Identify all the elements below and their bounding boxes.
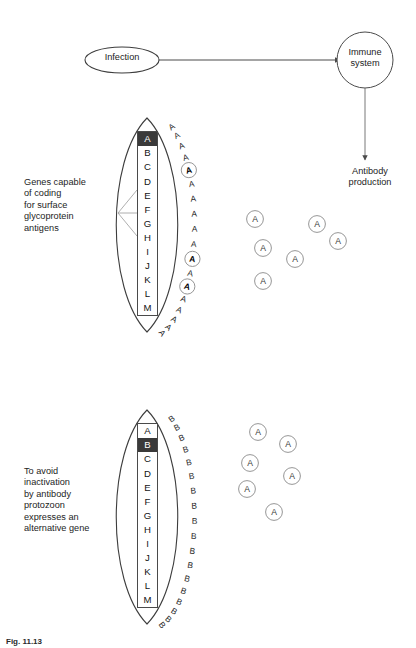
free-antibody-label: A xyxy=(255,427,261,437)
gene-cell: K xyxy=(138,273,157,287)
surface-antigen: B xyxy=(157,620,169,631)
gene-column-panel-1: ABCDEFGHIJKLM xyxy=(137,131,158,316)
surface-antigen: A xyxy=(177,140,186,152)
surface-antigen: A xyxy=(179,293,188,304)
gene-cell: E xyxy=(138,188,157,202)
free-antibody-label: A xyxy=(244,484,250,494)
surface-antigen: A xyxy=(189,254,196,265)
diagram-vector-layer: AAAAAAAAAAAAAAAAAA BBBBBBBBBBBBBBBBBB AA… xyxy=(0,0,416,648)
free-antibody-label: A xyxy=(252,214,258,224)
antibody-production-label: Antibody production xyxy=(334,166,406,188)
gene-cell: H xyxy=(138,523,157,537)
surface-antigen: B xyxy=(187,560,195,571)
surface-antigen: A xyxy=(190,193,197,204)
gene-cell: E xyxy=(138,480,157,494)
surface-antigen: B xyxy=(192,516,198,526)
surface-antigen: B xyxy=(172,421,182,433)
gene-cell: I xyxy=(138,245,157,259)
gene-cell: L xyxy=(138,287,157,301)
free-antibody-label: A xyxy=(314,219,320,229)
surface-antigen: A xyxy=(172,129,182,141)
surface-antigen: B xyxy=(189,546,196,557)
infection-label: Infection xyxy=(86,52,158,63)
gene-cell: F xyxy=(138,202,157,216)
free-antibody-label: A xyxy=(271,507,277,517)
gene-cell: D xyxy=(138,174,157,188)
surface-antigen: A xyxy=(192,224,198,234)
surface-antigen: A xyxy=(185,165,193,176)
figure-caption: Fig. 11.13 xyxy=(6,636,226,647)
free-antibody-label: A xyxy=(289,471,295,481)
gene-cell: H xyxy=(138,231,157,245)
gene-cell: J xyxy=(138,551,157,565)
gene-cell: B xyxy=(138,438,157,452)
surface-antigen: B xyxy=(177,432,186,444)
gene-cell: M xyxy=(138,593,157,607)
gene-cell: A xyxy=(138,424,157,438)
surface-antigen: B xyxy=(179,585,188,596)
surface-antigen: B xyxy=(183,573,191,584)
gene-cell: G xyxy=(138,509,157,523)
surface-antigen: B xyxy=(185,457,193,468)
gene-cell: G xyxy=(138,217,157,231)
gene-cell: C xyxy=(138,160,157,174)
gene-cell: B xyxy=(138,146,157,160)
gene-cell: L xyxy=(138,579,157,593)
surface-antigen: B xyxy=(191,500,197,510)
free-antibodies-panel-1: AAAAAA xyxy=(247,211,347,290)
surface-antigen: B xyxy=(188,470,195,481)
gene-cell: F xyxy=(138,494,157,508)
gene-cell: K xyxy=(138,565,157,579)
surface-antigen: A xyxy=(191,239,198,249)
surface-antigen: B xyxy=(190,485,197,496)
free-antibody-label: A xyxy=(335,236,341,246)
gene-cell: J xyxy=(138,259,157,273)
free-antibody-label: A xyxy=(292,254,298,264)
diagram-canvas: AAAAAAAAAAAAAAAAAA BBBBBBBBBBBBBBBBBB AA… xyxy=(0,0,416,648)
surface-antigen: A xyxy=(183,281,191,292)
gene-cell: M xyxy=(138,301,157,315)
surface-antigen: B xyxy=(181,444,190,455)
free-antibody-label: A xyxy=(285,439,291,449)
surface-antigen: B xyxy=(191,531,198,541)
gene-cell: C xyxy=(138,452,157,466)
surface-antigen: A xyxy=(191,208,197,218)
surface-antigen: A xyxy=(181,152,190,163)
gene-cell: A xyxy=(138,132,157,146)
surface-antigen: A xyxy=(187,268,195,279)
free-antibody-label: A xyxy=(260,276,266,286)
surface-antigen: A xyxy=(157,328,169,339)
free-antibody-label: A xyxy=(260,243,266,253)
free-antibodies-panel-2: AAAAAA xyxy=(239,424,301,521)
genes-caption: Genes capable of coding for surface glyc… xyxy=(24,177,116,234)
surface-antigen: A xyxy=(188,178,195,189)
gene-column-panel-2: ABCDEFGHIJKLM xyxy=(137,423,158,608)
alternative-gene-caption: To avoid inactivation by antibody protoz… xyxy=(24,466,122,534)
gene-cell: D xyxy=(138,466,157,480)
gene-cell: I xyxy=(138,537,157,551)
immune-system-label: Immune system xyxy=(334,47,396,69)
free-antibody-label: A xyxy=(247,458,253,468)
